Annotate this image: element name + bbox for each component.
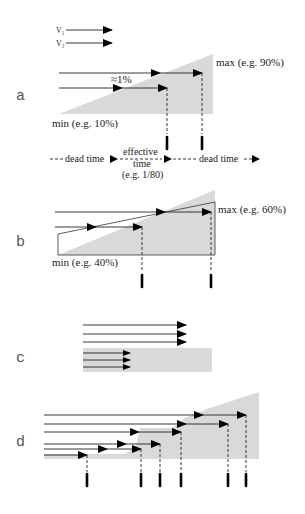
- timeline: dead time effective time (e.g. 1/80) dea…: [50, 146, 260, 181]
- min-label: min (e.g. 10%): [52, 117, 118, 130]
- legend-label-v2: V₂: [56, 39, 65, 48]
- panel-label-b: b: [16, 234, 25, 251]
- legend: V₁ V₂: [56, 26, 112, 48]
- effective-time-label-2: time: [133, 158, 151, 169]
- effective-time-label-1: effective: [123, 146, 158, 157]
- panel-d: d: [16, 392, 259, 486]
- panel-label-c: c: [16, 350, 25, 367]
- legend-label-v1: V₁: [56, 26, 65, 35]
- timeline-arrow-3: [252, 155, 260, 163]
- panel-a: a max (e.g. 90%) min (e.g. 10%) ≈1% dead…: [16, 54, 284, 181]
- threshold-ramp: [58, 190, 215, 255]
- delta-label: ≈1%: [111, 73, 132, 85]
- panel-b: b max (e.g. 60%) min (e.g. 40%): [16, 190, 286, 287]
- dead-time-right-label: dead time: [199, 153, 239, 164]
- panel-c: c: [16, 325, 212, 372]
- timeline-arrow-1: [110, 155, 118, 163]
- min-label: min (e.g. 40%): [52, 256, 118, 269]
- max-label: max (e.g. 60%): [218, 203, 286, 216]
- diagram-canvas: V₁ V₂ a max (e.g. 90%) min (e.g. 10%) ≈1…: [0, 0, 305, 514]
- panel-label-a: a: [16, 88, 25, 105]
- max-label: max (e.g. 90%): [216, 56, 284, 69]
- panel-label-d: d: [16, 434, 25, 451]
- dead-time-left-label: dead time: [65, 153, 105, 164]
- threshold-ramp: [59, 54, 213, 114]
- timeline-arrow-2: [164, 155, 172, 163]
- effective-time-label-3: (e.g. 1/80): [122, 169, 163, 181]
